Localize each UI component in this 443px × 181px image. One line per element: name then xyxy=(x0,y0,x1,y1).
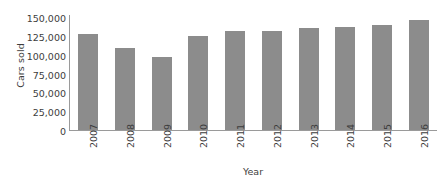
bar-slot xyxy=(217,18,254,130)
x-axis-tick-labels: 2007200820092010201120122013201420152016 xyxy=(70,134,437,164)
y-axis-tick-label: 50,000 xyxy=(33,88,66,99)
bar-slot xyxy=(180,18,217,130)
bar xyxy=(225,31,245,130)
x-tick-slot: 2007 xyxy=(70,134,107,164)
bar-slot xyxy=(143,18,180,130)
x-tick-slot: 2014 xyxy=(327,134,364,164)
bar xyxy=(299,28,319,130)
x-axis-tick-label: 2009 xyxy=(162,124,173,148)
bar xyxy=(115,48,135,130)
bar-slot xyxy=(327,18,364,130)
bar-slot xyxy=(70,18,107,130)
bar xyxy=(152,57,172,130)
x-tick-slot: 2011 xyxy=(217,134,254,164)
x-tick-slot: 2009 xyxy=(143,134,180,164)
y-axis-tick-label: 0 xyxy=(60,126,66,137)
y-axis-tick-label: 100,000 xyxy=(27,50,66,61)
x-axis-tick-label: 2008 xyxy=(125,124,136,148)
bar xyxy=(372,25,392,130)
x-axis-tick-label: 2014 xyxy=(345,124,356,148)
x-axis-tick-label: 2016 xyxy=(419,124,430,148)
x-tick-slot: 2015 xyxy=(364,134,401,164)
plot-area xyxy=(69,18,437,131)
x-tick-slot: 2008 xyxy=(107,134,144,164)
bar-slot xyxy=(254,18,291,130)
bar-slot xyxy=(290,18,327,130)
y-axis-title-text: Cars sold xyxy=(15,43,26,88)
bar xyxy=(262,31,282,130)
bar-slot xyxy=(400,18,437,130)
y-axis-tick-labels: 025,00050,00075,000100,000125,000150,000 xyxy=(26,18,66,131)
x-axis-tick-label: 2011 xyxy=(235,124,246,148)
bar-slot xyxy=(107,18,144,130)
bar xyxy=(78,34,98,130)
x-axis-title: Year xyxy=(69,166,437,177)
x-axis-tick-label: 2012 xyxy=(272,124,283,148)
x-tick-slot: 2013 xyxy=(290,134,327,164)
x-axis-tick-label: 2010 xyxy=(198,124,209,148)
y-axis-tick-label: 75,000 xyxy=(33,69,66,80)
x-tick-slot: 2010 xyxy=(180,134,217,164)
y-axis-tick-label: 150,000 xyxy=(27,13,66,24)
bar-series xyxy=(70,18,437,130)
bar-chart: Cars sold 025,00050,00075,000100,000125,… xyxy=(0,0,443,181)
x-axis-tick-label: 2013 xyxy=(309,124,320,148)
bar xyxy=(188,36,208,130)
x-axis-tick-label: 2015 xyxy=(382,124,393,148)
x-tick-slot: 2012 xyxy=(254,134,291,164)
bar xyxy=(409,20,429,130)
bar-slot xyxy=(364,18,401,130)
bar xyxy=(335,27,355,130)
x-axis-tick-label: 2007 xyxy=(88,124,99,148)
y-axis-tick-label: 125,000 xyxy=(27,31,66,42)
x-tick-slot: 2016 xyxy=(400,134,437,164)
y-axis-tick-label: 25,000 xyxy=(33,107,66,118)
